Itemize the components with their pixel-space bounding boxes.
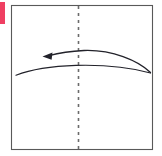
paper-square-outline <box>12 6 153 150</box>
diagram-canvas <box>0 0 162 156</box>
origami-fold-diagram: Square sheet with a vertical dashed cent… <box>0 0 162 156</box>
